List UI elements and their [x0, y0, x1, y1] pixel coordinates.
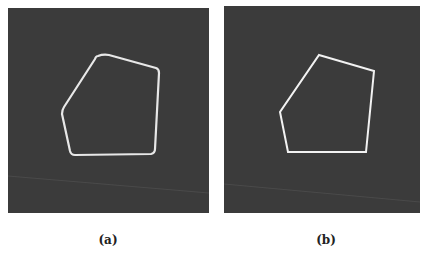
caption-a: (a) — [88, 233, 128, 247]
figure-panel-a — [8, 8, 209, 213]
noise-line — [224, 184, 420, 202]
caption-b: (b) — [306, 233, 346, 247]
noise-line — [8, 176, 209, 193]
figure-panel-b — [224, 6, 420, 213]
rounded-contour — [62, 55, 159, 155]
contour-image-b — [224, 6, 420, 213]
polygon-contour — [280, 55, 374, 152]
contour-image-a — [8, 8, 209, 213]
